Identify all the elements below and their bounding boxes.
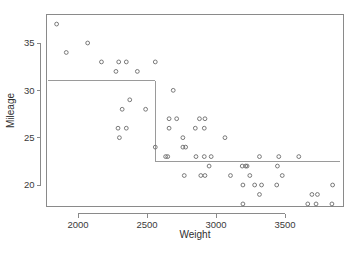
data-point — [124, 126, 128, 130]
data-point — [198, 117, 202, 121]
x-tick-label: 3500 — [274, 219, 295, 230]
x-tick-label: 3000 — [205, 219, 226, 230]
x-axis: 2000250030003500 — [67, 214, 295, 230]
data-point — [171, 88, 175, 92]
chart-canvas: 2000250030003500 20253035 Weight Mileage — [0, 0, 357, 257]
data-point — [117, 60, 121, 64]
data-point — [167, 126, 171, 130]
data-point — [124, 60, 128, 64]
data-point — [253, 183, 257, 187]
plot-panel — [47, 15, 344, 207]
data-point — [314, 202, 318, 206]
data-point — [310, 193, 314, 197]
y-tick-label: 35 — [24, 37, 35, 48]
data-point — [229, 174, 233, 178]
data-point — [203, 174, 207, 178]
data-point — [100, 60, 104, 64]
data-points-group — [55, 22, 335, 206]
data-point — [330, 202, 334, 206]
y-axis: 20253035 — [24, 37, 41, 190]
data-point — [199, 174, 203, 178]
data-point — [202, 126, 206, 130]
scatter-plot-figure: 2000250030003500 20253035 Weight Mileage — [0, 0, 357, 257]
data-point — [306, 202, 310, 206]
data-point — [167, 117, 171, 121]
data-point — [55, 22, 59, 26]
data-point — [260, 183, 264, 187]
data-point — [258, 155, 262, 159]
data-point — [331, 183, 335, 187]
data-point — [275, 183, 279, 187]
data-point — [175, 117, 179, 121]
data-point — [203, 117, 207, 121]
x-axis-title: Weight — [180, 229, 211, 240]
data-point — [144, 107, 148, 111]
data-point — [207, 164, 211, 168]
data-point — [128, 98, 132, 102]
data-point — [181, 136, 185, 140]
data-point — [120, 107, 124, 111]
data-point — [153, 60, 157, 64]
y-tick-label: 30 — [24, 85, 35, 96]
data-point — [118, 136, 122, 140]
data-point — [258, 193, 262, 197]
data-point — [276, 164, 280, 168]
data-point — [114, 70, 118, 74]
data-point — [182, 174, 186, 178]
data-point — [297, 155, 301, 159]
x-tick-label: 2500 — [136, 219, 157, 230]
data-point — [193, 126, 197, 130]
data-point — [184, 145, 188, 149]
partition-step-lines — [48, 81, 341, 161]
data-point — [241, 202, 245, 206]
data-point — [209, 155, 213, 159]
data-point — [202, 155, 206, 159]
panel-border — [47, 15, 344, 207]
data-point — [116, 126, 120, 130]
data-point — [135, 70, 139, 74]
data-point — [241, 183, 245, 187]
data-point — [248, 174, 252, 178]
x-tick-label: 2000 — [67, 219, 88, 230]
data-point — [316, 193, 320, 197]
data-point — [223, 136, 227, 140]
y-tick-label: 25 — [24, 132, 35, 143]
data-point — [194, 155, 198, 159]
y-tick-label: 20 — [24, 179, 35, 190]
data-point — [86, 41, 90, 45]
data-point — [64, 51, 68, 55]
y-axis-title: Mileage — [5, 93, 16, 128]
data-point — [280, 174, 284, 178]
data-point — [277, 155, 281, 159]
